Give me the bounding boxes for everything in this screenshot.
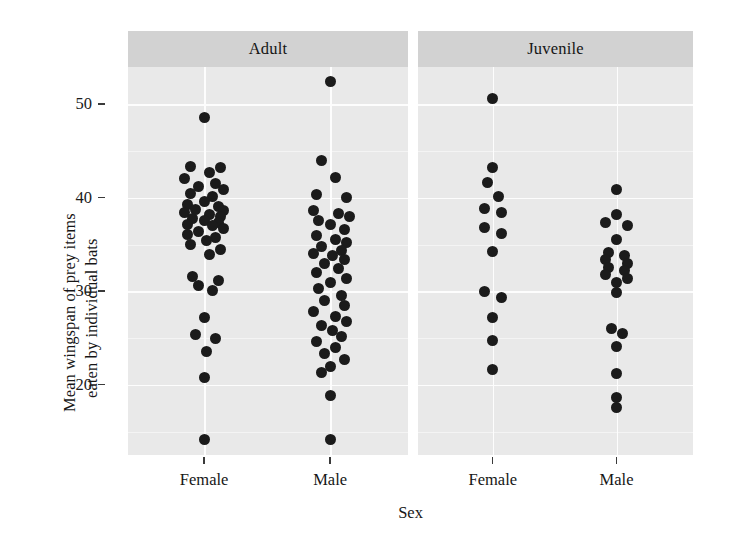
data-point (330, 342, 341, 353)
data-point (308, 306, 319, 317)
data-point (611, 234, 622, 245)
y-tick-label: 50 (52, 94, 92, 114)
data-point (622, 220, 633, 231)
data-point (344, 211, 355, 222)
gridline-minor (128, 338, 408, 339)
data-point (336, 290, 347, 301)
data-point (339, 224, 350, 235)
data-point (182, 219, 193, 230)
data-point (316, 320, 327, 331)
data-point (479, 203, 490, 214)
data-point (313, 215, 324, 226)
data-point (193, 280, 204, 291)
data-point (210, 333, 221, 344)
y-axis-ticks: 50403020 (52, 0, 114, 460)
data-point (179, 173, 190, 184)
facet-strip-juvenile: Juvenile (418, 31, 693, 67)
data-point (487, 364, 498, 375)
x-axis-title: Sex (398, 503, 423, 523)
data-point (199, 312, 210, 323)
x-tick-label-female: Female (180, 470, 229, 490)
gridline-minor (418, 432, 693, 433)
data-point (496, 292, 507, 303)
gridline-major (418, 198, 693, 200)
panel-adult (128, 67, 408, 455)
data-point (311, 336, 322, 347)
data-point (319, 348, 330, 359)
data-point (218, 184, 229, 195)
data-point (185, 161, 196, 172)
data-point (330, 311, 341, 322)
data-point (487, 335, 498, 346)
data-point (199, 372, 210, 383)
gridline-vertical (204, 67, 206, 455)
x-tick-label-male: Male (600, 470, 634, 490)
data-point (622, 273, 633, 284)
data-point (213, 275, 224, 286)
data-point (487, 93, 498, 104)
y-tick-mark (98, 290, 105, 291)
data-point (341, 192, 352, 203)
data-point (199, 196, 210, 207)
data-point (333, 263, 344, 274)
data-point (479, 222, 490, 233)
data-point (339, 354, 350, 365)
facet-strip-label: Juvenile (527, 39, 584, 59)
data-point (199, 112, 210, 123)
gridline-major (418, 291, 693, 293)
gridline-minor (128, 151, 408, 152)
gridline-major (128, 104, 408, 106)
data-point (487, 312, 498, 323)
data-point (185, 188, 196, 199)
data-point (487, 246, 498, 257)
data-point (201, 346, 212, 357)
data-point (479, 286, 490, 297)
y-tick-50: 50 (52, 94, 114, 114)
gridline-major (418, 104, 693, 106)
y-tick-30: 30 (52, 281, 114, 301)
data-point (482, 177, 493, 188)
data-point (333, 208, 344, 219)
x-tick-label-female: Female (469, 470, 518, 490)
data-point (319, 258, 330, 269)
data-point (611, 287, 622, 298)
gridline-minor (418, 151, 693, 152)
data-point (487, 162, 498, 173)
gridline-minor (128, 432, 408, 433)
data-point (215, 162, 226, 173)
data-point (341, 273, 352, 284)
data-point (496, 228, 507, 239)
data-point (611, 209, 622, 220)
data-point (336, 331, 347, 342)
data-point (339, 300, 350, 311)
data-point (185, 239, 196, 250)
facet-strip-adult: Adult (128, 31, 408, 67)
x-tick-mark (329, 457, 330, 464)
data-point (308, 248, 319, 259)
gridline-minor (128, 245, 408, 246)
data-point (330, 172, 341, 183)
data-point (606, 323, 617, 334)
data-point (207, 220, 218, 231)
data-point (330, 234, 341, 245)
chart-figure: Mean wingspan of prey items eaten by ind… (0, 0, 730, 548)
data-point (204, 167, 215, 178)
data-point (325, 219, 336, 230)
x-tick-label-male: Male (313, 470, 347, 490)
data-point (325, 434, 336, 445)
data-point (611, 402, 622, 413)
data-point (218, 223, 229, 234)
gridline-minor (418, 245, 693, 246)
data-point (617, 328, 628, 339)
x-tick-mark (492, 457, 493, 464)
data-point (311, 230, 322, 241)
y-tick-label: 20 (52, 375, 92, 395)
data-point (316, 367, 327, 378)
data-point (611, 184, 622, 195)
data-point (319, 295, 330, 306)
data-point (341, 316, 352, 327)
y-tick-20: 20 (52, 375, 114, 395)
data-point (311, 189, 322, 200)
data-point (496, 207, 507, 218)
data-point (600, 217, 611, 228)
